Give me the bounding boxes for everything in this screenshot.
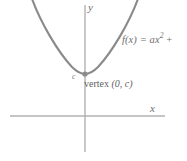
axis-label-x: x [150, 103, 155, 114]
vertex-dot [82, 71, 87, 76]
vertex-annotation: vertex (0, c) [84, 79, 133, 89]
function-equation-label: f(x) = ax2 + [122, 32, 172, 45]
function-suffix: + [164, 34, 173, 45]
c-value-marker: c [72, 73, 76, 81]
vertex-annotation-text: vertex [84, 78, 112, 89]
vertex-annotation-coords: (0, c) [112, 78, 133, 89]
function-prefix: f(x) = ax [122, 34, 160, 45]
parabola-figure: y x f(x) = ax2 + vertex (0, c) c [0, 0, 187, 161]
axis-label-y: y [88, 2, 93, 13]
